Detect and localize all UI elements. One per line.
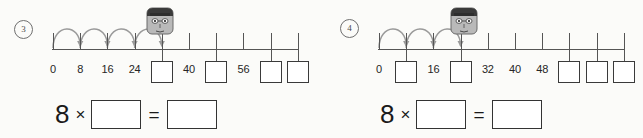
tick-mark [189,33,190,50]
tick-answer-box[interactable] [450,61,472,83]
tick-mark [488,33,489,50]
tick-answer-box[interactable] [287,61,309,83]
tick-answer-box[interactable] [558,61,580,83]
tick-label: 8 [67,63,93,75]
tick-mark [243,33,244,50]
tick-label: 40 [502,63,528,75]
tick-mark [107,33,108,50]
tick-answer-box[interactable] [395,61,417,83]
tick-mark [406,33,407,61]
tick-mark [569,33,570,61]
tick-label: 56 [230,63,256,75]
tick-mark [597,33,598,61]
tick-mark [53,33,54,50]
tick-answer-box[interactable] [205,61,227,83]
equation-factor-answer-box[interactable] [416,100,466,129]
student-head-icon [445,5,483,39]
equation-factor-answer-box[interactable] [91,100,141,129]
tick-answer-box[interactable] [260,61,282,83]
multiply-symbol: × [75,106,85,123]
tick-label: 24 [122,63,148,75]
tick-mark [624,33,625,61]
equals-symbol: = [473,105,484,124]
tick-mark [80,33,81,50]
jump-arc [107,29,134,48]
tick-mark [542,33,543,50]
tick-mark [515,33,516,50]
tick-mark [379,33,380,50]
tick-answer-box[interactable] [151,61,173,83]
student-head-icon [141,5,179,39]
jump-arc [379,29,406,48]
multiply-symbol: × [400,106,410,123]
equation-factor: 8 [55,101,69,127]
problem-panel-4: 4 016324048 8 × = [322,0,643,138]
equation-row-3: 8 × = [55,96,217,132]
equation-row-4: 8 × = [380,96,542,132]
tick-label: 0 [40,63,66,75]
tick-answer-box[interactable] [586,61,608,83]
worksheet-page: 3 0816244056 8 × = [0,0,643,138]
tick-label: 16 [420,63,446,75]
tick-mark [298,33,299,61]
tick-label: 0 [366,63,392,75]
tick-label: 40 [176,63,202,75]
tick-label: 48 [529,63,555,75]
tick-label: 16 [94,63,120,75]
tick-mark [433,33,434,50]
tick-label: 32 [475,63,501,75]
tick-answer-box[interactable] [613,61,635,83]
equation-factor: 8 [380,101,394,127]
jump-arc [406,29,433,48]
equation-product-answer-box[interactable] [167,100,217,129]
jump-arc [53,29,80,48]
tick-mark [271,33,272,61]
jump-arc [80,29,107,48]
equals-symbol: = [148,105,159,124]
problem-panel-3: 3 0816244056 8 × = [0,0,321,138]
tick-mark [216,33,217,61]
equation-product-answer-box[interactable] [492,100,542,129]
tick-mark [135,33,136,50]
